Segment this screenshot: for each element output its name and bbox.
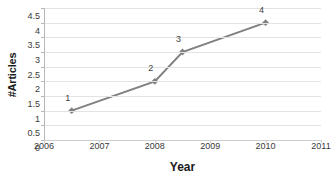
x-tick-label: 2008 <box>145 142 165 151</box>
gridline-horizontal <box>44 37 321 38</box>
data-point-label: 3 <box>176 35 181 44</box>
y-tick-mark <box>41 125 45 126</box>
data-point-label: 1 <box>65 94 70 103</box>
gridline-horizontal <box>44 52 321 53</box>
x-axis-title: Year <box>44 160 321 174</box>
x-tick-label: 2006 <box>34 142 54 151</box>
y-tick-mark <box>41 81 45 82</box>
x-axis-tick-labels: 200620072008200920102011 <box>44 142 321 156</box>
gridline-horizontal <box>44 8 321 9</box>
y-tick-label: 2 <box>35 85 40 94</box>
x-tick-label: 2010 <box>256 142 276 151</box>
gridline-horizontal <box>44 67 321 68</box>
y-tick-mark <box>41 111 45 112</box>
gridline-horizontal <box>44 111 321 112</box>
y-tick-mark <box>41 23 45 24</box>
data-series <box>44 8 321 140</box>
y-tick-mark <box>41 8 45 9</box>
y-tick-label: 4.5 <box>27 12 40 21</box>
gridline-horizontal <box>44 96 321 97</box>
y-axis-title: #Articles <box>3 0 21 150</box>
y-tick-label: 0.5 <box>27 129 40 138</box>
y-tick-mark <box>41 37 45 38</box>
data-point-label: 4 <box>259 6 264 15</box>
y-tick-mark <box>41 67 45 68</box>
x-tick-label: 2007 <box>89 142 109 151</box>
y-tick-label: 4 <box>35 26 40 35</box>
y-tick-label: 3.5 <box>27 41 40 50</box>
y-tick-label: 1 <box>35 114 40 123</box>
gridline-horizontal <box>44 81 321 82</box>
x-tick-label: 2011 <box>311 142 330 151</box>
y-axis-tick-labels: 00.511.522.533.544.5 <box>20 8 40 140</box>
y-tick-label: 3 <box>35 56 40 65</box>
y-tick-mark <box>41 52 45 53</box>
y-axis-title-text: #Articles <box>6 53 18 98</box>
gridline-horizontal <box>44 23 321 24</box>
gridline-horizontal <box>44 140 321 141</box>
gridline-horizontal <box>44 125 321 126</box>
y-tick-mark <box>41 96 45 97</box>
plot-area: 1234 <box>44 8 321 140</box>
data-point-label: 2 <box>148 64 153 73</box>
y-tick-label: 1.5 <box>27 100 40 109</box>
y-tick-label: 2.5 <box>27 70 40 79</box>
x-tick-label: 2009 <box>200 142 220 151</box>
